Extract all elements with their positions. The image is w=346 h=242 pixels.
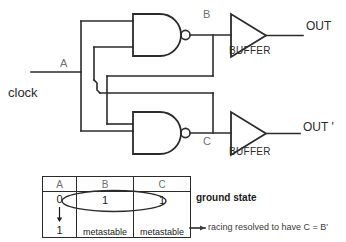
annotation-racing: racing resolved to have C = B' (208, 222, 328, 232)
c-value-stack: 1 metastable (134, 193, 190, 237)
signal-label-out: OUT (306, 19, 331, 33)
table-cell-a: 0 1 (43, 192, 77, 238)
c-value-top: 1 (159, 195, 165, 206)
down-arrow-icon (55, 207, 64, 223)
table-header-row: A B C (43, 177, 191, 192)
buffer-top-label: BUFFER (229, 45, 271, 56)
table-header-b: B (77, 177, 134, 192)
nand-top-bubble (181, 30, 190, 39)
nand-gate-top (133, 14, 181, 56)
truth-table: A B C 0 1 1 (42, 176, 191, 238)
diagram-root: A clock B C OUT OUT ' BUFFER BUFFER grou… (0, 0, 346, 242)
nand-gate-bottom (133, 112, 181, 154)
nand-bottom-bubble (181, 128, 190, 137)
c-value-bottom: metastable (140, 228, 184, 237)
table-header-a: A (43, 177, 77, 192)
signal-label-clock: clock (8, 85, 38, 100)
b-value-stack: 1 metastable (77, 193, 133, 237)
signal-label-b: B (203, 8, 210, 20)
table-row: 0 1 1 metastable 1 (43, 192, 191, 238)
signal-label-c: C (203, 135, 211, 147)
a-value-bottom: 1 (56, 225, 62, 236)
b-value-top: 1 (102, 195, 108, 206)
signal-label-a: A (60, 57, 67, 69)
b-value-bottom: metastable (83, 228, 127, 237)
annotation-ground-state: ground state (196, 192, 257, 203)
wire-crossover-hop (94, 80, 100, 93)
a-value-top: 0 (56, 194, 62, 205)
table-cell-c: 1 metastable (134, 192, 191, 238)
table-header-c: C (134, 177, 191, 192)
signal-label-out-prime: OUT ' (303, 120, 334, 134)
racing-arrow-head (200, 226, 205, 231)
buffer-bottom-label: BUFFER (229, 146, 271, 157)
table-cell-b: 1 metastable (77, 192, 134, 238)
a-transition-stack: 0 1 (43, 193, 76, 236)
